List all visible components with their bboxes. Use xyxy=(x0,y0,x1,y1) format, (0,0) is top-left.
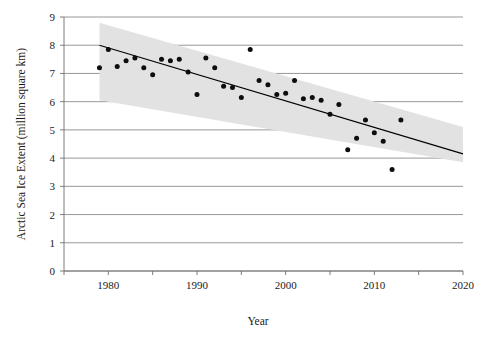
data-point xyxy=(398,118,403,123)
data-point xyxy=(97,65,102,70)
y-axis-title: Arctic Sea Ice Extent (million square km… xyxy=(15,48,28,240)
data-point xyxy=(230,85,235,90)
data-point xyxy=(115,64,120,69)
y-tick-label-5: 5 xyxy=(50,124,56,136)
y-tick-label-4: 4 xyxy=(50,152,56,164)
x-tick-label-1990: 1990 xyxy=(186,279,209,291)
data-point xyxy=(195,92,200,97)
data-point xyxy=(159,57,164,62)
data-point xyxy=(221,84,226,89)
scatter-plot: 0123456789 19801990200020102020 Year Arc… xyxy=(0,0,490,341)
y-tick-label-8: 8 xyxy=(50,39,56,51)
data-point xyxy=(328,112,333,117)
data-point xyxy=(265,82,270,87)
data-point xyxy=(132,55,137,60)
data-point xyxy=(141,65,146,70)
data-point xyxy=(310,95,315,100)
y-tick-label-2: 2 xyxy=(50,209,56,221)
y-tick-label-0: 0 xyxy=(50,265,56,277)
x-tick-label-2010: 2010 xyxy=(363,279,386,291)
data-point xyxy=(336,102,341,107)
data-point xyxy=(301,96,306,101)
x-axis-title: Year xyxy=(247,315,268,327)
data-point xyxy=(372,130,377,135)
data-point xyxy=(106,47,111,52)
x-tick-label-1980: 1980 xyxy=(97,279,120,291)
x-tick-label-2000: 2000 xyxy=(275,279,298,291)
y-tick-label-3: 3 xyxy=(50,180,56,192)
data-point xyxy=(124,58,129,63)
data-point xyxy=(203,55,208,60)
y-tick-label-9: 9 xyxy=(50,11,56,23)
y-tick-label-1: 1 xyxy=(50,237,56,249)
y-tick-label-6: 6 xyxy=(50,96,56,108)
data-point xyxy=(257,78,262,83)
y-tick-label-7: 7 xyxy=(50,67,56,79)
x-tick-label-2020: 2020 xyxy=(452,279,475,291)
data-point xyxy=(363,118,368,123)
data-point xyxy=(177,57,182,62)
data-point xyxy=(239,95,244,100)
data-point xyxy=(319,98,324,103)
chart-figure: 0123456789 19801990200020102020 Year Arc… xyxy=(0,0,490,341)
data-point xyxy=(274,92,279,97)
data-point xyxy=(186,70,191,75)
data-point xyxy=(283,91,288,96)
plot-background xyxy=(0,0,490,341)
data-point xyxy=(292,78,297,83)
data-point xyxy=(150,72,155,77)
data-point xyxy=(381,139,386,144)
data-point xyxy=(168,58,173,63)
data-point xyxy=(345,147,350,152)
data-point xyxy=(248,47,253,52)
data-point xyxy=(212,65,217,70)
data-point xyxy=(354,136,359,141)
data-point xyxy=(390,167,395,172)
